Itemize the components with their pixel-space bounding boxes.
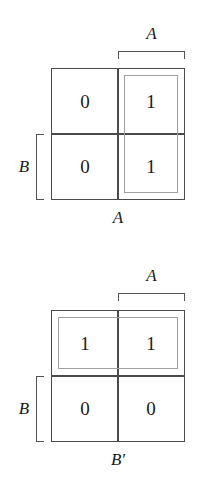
kmap-cell-r1c0: 0 [52, 134, 118, 199]
column-group-bracket [118, 51, 185, 59]
kmap-bottom-caption: A [51, 208, 185, 228]
kmap-cell-r0c1: 1 [118, 311, 184, 376]
kmap-cell-r0c0: 1 [52, 311, 118, 376]
row-variable-label-b: B [14, 157, 34, 177]
column-variable-label-a: A [118, 24, 185, 44]
row-group-bracket [36, 376, 44, 442]
kmap-grid: 1 1 0 0 [51, 310, 185, 442]
kmap-cell-r1c0: 0 [52, 376, 118, 441]
karnaugh-map-2: A B 1 1 0 0 B′ [0, 241, 204, 482]
kmap-cell-r1c1: 1 [118, 134, 184, 199]
kmap-grid: 0 1 0 1 [51, 68, 185, 200]
karnaugh-map-1: A B 0 1 0 1 A [0, 0, 204, 241]
row-group-bracket [36, 134, 44, 200]
column-variable-label-a: A [118, 266, 185, 286]
kmap-cell-r0c0: 0 [52, 69, 118, 134]
row-variable-label-b: B [14, 399, 34, 419]
kmap-bottom-caption: B′ [51, 450, 185, 470]
kmap-cell-r0c1: 1 [118, 69, 184, 134]
column-group-bracket [118, 293, 185, 301]
kmap-cell-r1c1: 0 [118, 376, 184, 441]
